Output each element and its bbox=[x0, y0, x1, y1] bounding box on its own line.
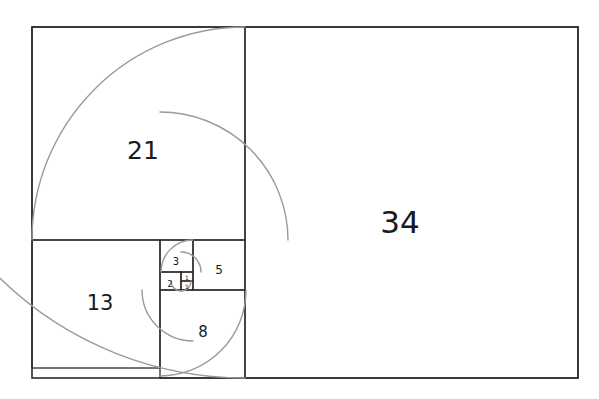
square-label-3: 8 bbox=[198, 323, 208, 341]
square-label-8: 1 bbox=[185, 274, 189, 281]
square-label-4: 5 bbox=[215, 263, 223, 277]
canvas-background bbox=[0, 0, 599, 399]
square-label-5: 3 bbox=[173, 256, 179, 267]
fibonacci-spiral-figure: 342113853211 bbox=[0, 0, 599, 399]
square-label-7: 1 bbox=[185, 283, 189, 290]
square-label-1: 21 bbox=[127, 136, 159, 165]
square-label-6: 2 bbox=[167, 280, 172, 289]
fibonacci-spiral-canvas: 342113853211 bbox=[0, 0, 599, 399]
square-label-2: 13 bbox=[87, 291, 114, 315]
square-label-0: 34 bbox=[380, 204, 419, 240]
